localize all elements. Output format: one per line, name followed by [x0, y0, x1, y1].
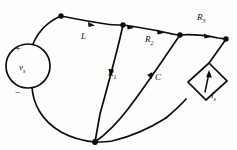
branch-current-source-lower-lead — [166, 99, 186, 118]
node-top-mid — [120, 22, 125, 27]
node-top-left — [58, 13, 63, 18]
voltage-source-label: vs — [19, 63, 25, 74]
branch-resistor-2 — [123, 25, 180, 35]
branch-inductor — [61, 16, 123, 25]
resistor-3-label-sub: 3 — [203, 18, 206, 24]
branch-resistor-1 — [95, 25, 123, 142]
node-bottom — [92, 139, 98, 145]
branch-source-lower-lead — [32, 87, 95, 142]
resistor-3-label: R3 — [197, 13, 206, 24]
resistor-2-label: R2 — [145, 35, 154, 46]
voltage-source-symbol — [6, 44, 50, 88]
current-source-label: is — [211, 91, 216, 102]
inductor-label: L — [81, 32, 86, 41]
circuit-diagram-figure: + − vs L R1 R2 C R3 is — [0, 0, 237, 150]
node-far-right — [223, 36, 228, 41]
voltage-source-plus-sign: + — [15, 44, 21, 54]
current-source-label-sub: s — [214, 96, 216, 102]
branch-bottom-arc — [95, 118, 166, 142]
node-top-right — [177, 32, 182, 37]
capacitor-label: C — [155, 73, 161, 82]
branch-resistor-3 — [180, 35, 226, 39]
resistor-1-label-sub: 1 — [114, 74, 117, 80]
branch-current-source-upper-lead — [209, 39, 226, 63]
branch-source-upper-lead — [33, 16, 61, 44]
voltage-source-minus-sign: − — [15, 88, 21, 98]
resistor-2-label-sub: 2 — [151, 40, 154, 46]
voltage-source-label-sub: s — [23, 68, 25, 74]
resistor-1-label: R1 — [108, 69, 117, 80]
